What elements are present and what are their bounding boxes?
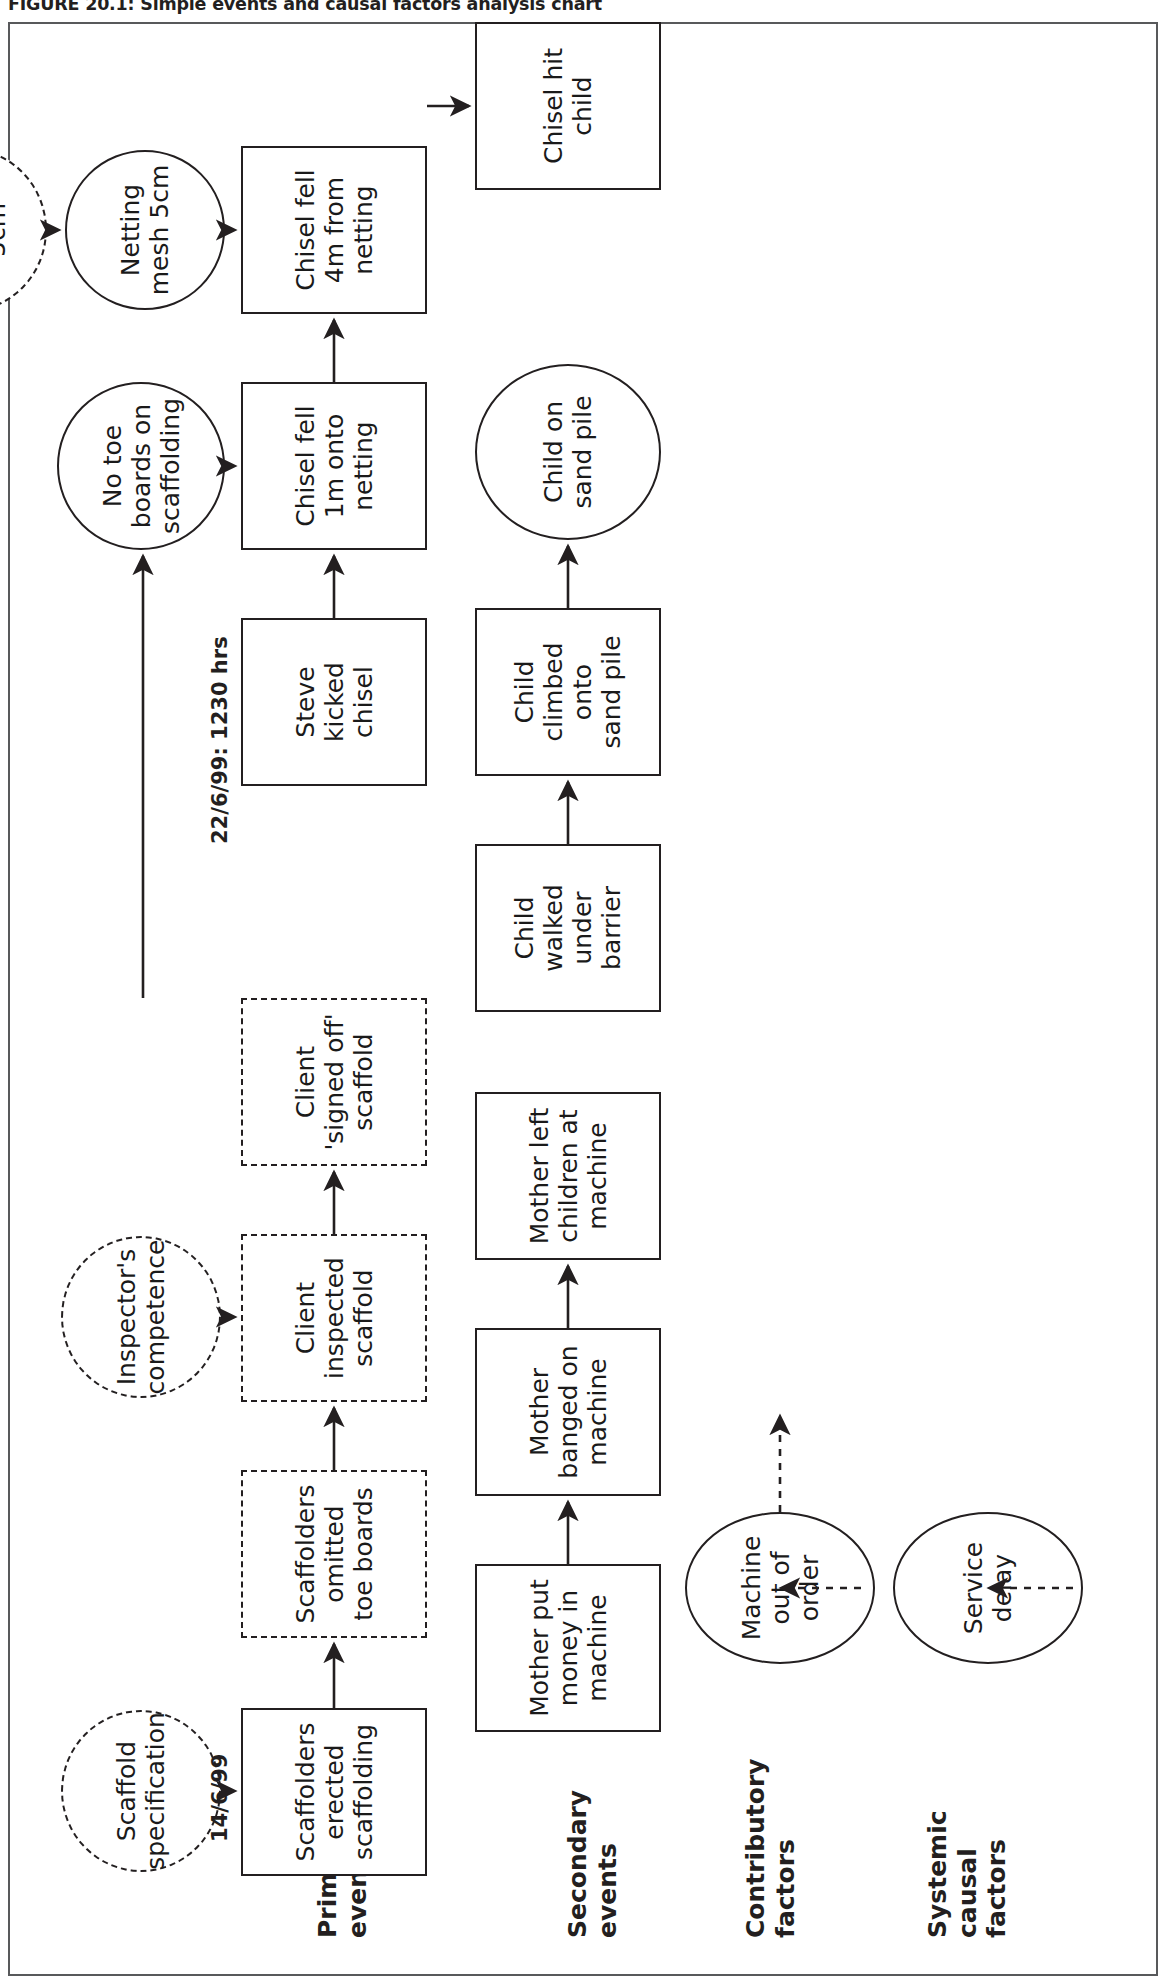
node-mother-put-money[interactable]: Mother put money in machine (475, 1564, 661, 1732)
node-child-walked-under[interactable]: Child walked under barrier (475, 844, 661, 1012)
time-label-start-date: 14/6/99 (208, 1754, 232, 1842)
node-client-signed-off[interactable]: Client 'signed off' scaffold (241, 998, 427, 1166)
node-chisel-fell-1m[interactable]: Chisel fell 1m onto netting (241, 382, 427, 550)
node-service-delay[interactable]: Service delay (893, 1512, 1083, 1664)
node-machine-out-of-order[interactable]: Machine out of order (685, 1512, 875, 1664)
node-child-on-sand-pile[interactable]: Child on sand pile (475, 364, 661, 540)
time-label-incident-datetime: 22/6/99: 1230 hrs (208, 636, 232, 844)
node-chisel-fell-4m[interactable]: Chisel fell 4m from netting (241, 146, 427, 314)
node-steve-kicked-chisel[interactable]: Steve kicked chisel (241, 618, 427, 786)
node-inspectors-competence[interactable]: Inspector's competence (61, 1236, 221, 1398)
figure-title: FIGURE 20.1: Simple events and causal fa… (8, 0, 1158, 20)
node-scaffolders-omitted[interactable]: Scaffolders omitted toe boards (241, 1470, 427, 1638)
lane-label-systemic: Systemic causal factors (923, 1810, 1012, 1938)
diagram-canvas: Systemic causal factors Contributory fac… (23, 34, 1143, 1964)
figure-frame: Systemic causal factors Contributory fac… (8, 22, 1158, 1976)
node-child-climbed-onto[interactable]: Child climbed onto sand pile (475, 608, 661, 776)
node-netting-specification[interactable]: Netting specification 5cm (0, 148, 47, 312)
node-chisel-hit-child[interactable]: Chisel hit child (475, 22, 661, 190)
node-mother-banged[interactable]: Mother banged on machine (475, 1328, 661, 1496)
node-no-toe-boards[interactable]: No toe boards on scaffolding (57, 382, 225, 550)
lane-label-contributory: Contributory factors (741, 1758, 800, 1938)
node-netting-mesh[interactable]: Netting mesh 5cm (65, 150, 225, 310)
node-scaffold-specification[interactable]: Scaffold specification (61, 1710, 221, 1872)
node-client-inspected[interactable]: Client inspected scaffold (241, 1234, 427, 1402)
node-scaffolders-erected[interactable]: Scaffolders erected scaffolding (241, 1708, 427, 1876)
node-mother-left-children[interactable]: Mother left children at machine (475, 1092, 661, 1260)
lane-label-secondary: Secondary events (563, 1790, 622, 1938)
